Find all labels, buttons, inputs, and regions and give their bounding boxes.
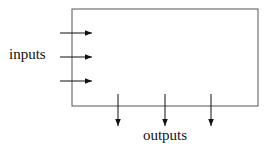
input-arrows xyxy=(60,33,92,81)
block-diagram: inputs outputs xyxy=(0,0,269,146)
outputs-label: outputs xyxy=(143,127,187,143)
inputs-label: inputs xyxy=(9,46,46,62)
system-box xyxy=(72,9,258,106)
output-arrows xyxy=(118,94,211,126)
